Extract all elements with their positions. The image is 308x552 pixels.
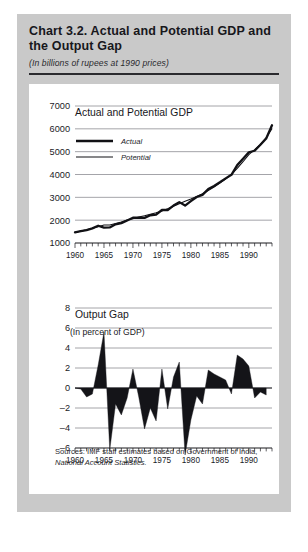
gdp-x-tick-1980: 1980 — [182, 251, 201, 260]
sources-note: Sources: IMF staff estimates based on Go… — [55, 446, 271, 468]
sources-line-1: Sources: IMF staff estimates based on Go… — [55, 446, 271, 457]
gdp-panel-title: Actual and Potential GDP — [75, 107, 193, 118]
gap-y-tick-labels: –6–4–202468 — [60, 303, 70, 453]
gdp-x-tick-labels: 1960196519701975198019851990 — [66, 251, 258, 260]
legend-label-actual: Actual — [120, 137, 142, 146]
gap-y-tick--2: –2 — [60, 403, 70, 413]
gap-y-tick-4: 4 — [65, 343, 70, 353]
gdp-x-tick-1970: 1970 — [124, 251, 143, 260]
gdp-y-tick-4000: 4000 — [50, 170, 70, 180]
gdp-legend: Actual Potential — [76, 137, 151, 162]
figure-header: Chart 3.2. Actual and Potential GDP and … — [17, 14, 291, 68]
gdp-x-tick-1985: 1985 — [211, 251, 230, 260]
sources-line-2: National Account Statistics. — [55, 457, 271, 468]
gap-panel-title: Output Gap — [75, 309, 129, 320]
gdp-y-tick-2000: 2000 — [50, 216, 70, 226]
legend-label-potential: Potential — [121, 153, 151, 162]
figure-title: Chart 3.2. Actual and Potential GDP and … — [29, 24, 279, 55]
gdp-y-tick-6000: 6000 — [50, 124, 70, 134]
gdp-chart-svg: 1000200030004000500060007000 19601965197… — [29, 88, 279, 286]
gap-y-tick-8: 8 — [65, 303, 70, 313]
chart-figure: Chart 3.2. Actual and Potential GDP and … — [17, 14, 291, 512]
gdp-y-tick-1000: 1000 — [50, 238, 70, 248]
gdp-x-tick-1960: 1960 — [66, 251, 85, 260]
gdp-x-tick-1975: 1975 — [153, 251, 172, 260]
panel-actual-potential-gdp: 1000200030004000500060007000 19601965197… — [29, 88, 279, 286]
gdp-x-tick-1965: 1965 — [95, 251, 114, 260]
gdp-y-tick-3000: 3000 — [50, 193, 70, 203]
gdp-y-tick-labels: 1000200030004000500060007000 — [50, 101, 70, 248]
gdp-y-tick-5000: 5000 — [50, 147, 70, 157]
gdp-y-tick-7000: 7000 — [50, 101, 70, 111]
gdp-x-tick-1990: 1990 — [240, 251, 259, 260]
gdp-x-tick-marks — [75, 243, 272, 248]
gap-y-tick-2: 2 — [65, 363, 70, 373]
gap-y-tick--4: –4 — [60, 423, 70, 433]
gap-panel-subtitle: (In percent of GDP) — [70, 327, 145, 337]
gap-y-tick-0: 0 — [65, 383, 70, 393]
output-gap-area — [75, 332, 266, 455]
figure-subtitle: (In billions of rupees at 1990 prices) — [29, 58, 279, 68]
plot-card: 1000200030004000500060007000 19601965197… — [29, 84, 279, 494]
header-divider — [29, 73, 279, 75]
gdp-potential-line — [75, 129, 272, 232]
